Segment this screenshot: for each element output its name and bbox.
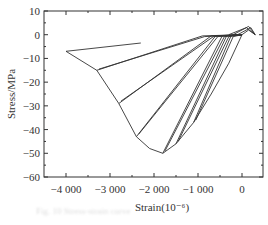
hysteresis-loop [66, 43, 141, 51]
y-tick-label: −30 [23, 100, 41, 112]
stress-strain-chart: 100−10−20−30−40−50−60 −4 000−3 000−2 000… [0, 0, 268, 225]
y-axis-title: Stress/MPa [5, 69, 17, 119]
figure-caption: Fig. 10 Stress-strain curve [36, 206, 256, 216]
x-tick-label: −2 000 [139, 183, 170, 195]
y-tick-label: 10 [29, 5, 41, 17]
y-tick-label: −20 [23, 76, 41, 88]
x-tick-label: −1 000 [183, 183, 214, 195]
y-tick-label: −40 [23, 124, 41, 136]
y-tick-label: −60 [23, 171, 41, 183]
y-tick-label: −10 [23, 52, 41, 64]
x-tick-label: 0 [239, 183, 245, 195]
y-tick-label: 0 [35, 29, 41, 41]
x-tick-label: −3 000 [95, 183, 126, 195]
y-tick-label: −50 [23, 147, 41, 159]
y-axis: 100−10−20−30−40−50−60 [23, 5, 263, 183]
hysteresis-loop [119, 35, 242, 104]
hysteresis-loop [136, 35, 242, 137]
plot-lines [66, 26, 255, 153]
hysteresis-loop [176, 35, 242, 144]
x-tick-label: −4 000 [51, 183, 82, 195]
